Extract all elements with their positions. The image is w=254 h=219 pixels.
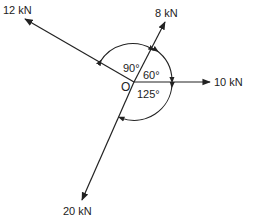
angle-label-125: 125° [137,89,160,100]
angle-label-90: 90° [123,63,140,74]
angle-label-60: 60° [143,70,160,81]
origin-label: O [121,81,130,93]
angle-arc-90 [100,44,152,62]
force-label-20kn: 20 kN [63,206,92,217]
force-12kn-arrow [25,19,134,82]
force-diagram [0,0,254,219]
force-label-8kn: 8 kN [155,8,178,19]
force-20kn-arrow [82,82,134,200]
force-label-12kn: 12 kN [3,5,32,16]
force-label-10kn: 10 kN [214,77,243,88]
